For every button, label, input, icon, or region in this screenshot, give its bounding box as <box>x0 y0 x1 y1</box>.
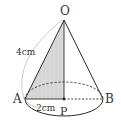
label-B: B <box>105 92 114 106</box>
label-O: O <box>60 4 70 18</box>
edge-OB <box>64 20 103 99</box>
cone-diagram: O A B P 4cm 2cm <box>0 0 121 123</box>
center-point-P <box>63 98 66 101</box>
label-A: A <box>12 92 22 106</box>
label-P: P <box>60 105 68 118</box>
length-label-OA: 4cm <box>16 47 36 57</box>
length-label-AP: 2cm <box>36 103 56 113</box>
